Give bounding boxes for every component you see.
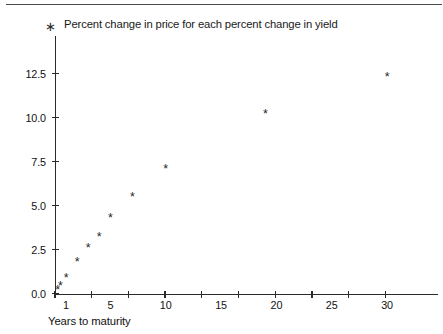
- scatter-point: *: [105, 212, 115, 222]
- x-axis-tick: [348, 291, 349, 298]
- y-axis-tick: [52, 117, 59, 118]
- x-axis-tick-label: 25: [317, 299, 347, 311]
- x-axis-tick: [164, 291, 165, 298]
- y-axis-tick-label: 2.5: [12, 244, 46, 256]
- x-axis-tick-label: 5: [95, 299, 125, 311]
- x-axis-tick-label: 10: [151, 299, 181, 311]
- x-axis-tick-label: 1: [51, 299, 81, 311]
- scatter-point: *: [127, 191, 137, 201]
- scatter-point: *: [260, 108, 270, 118]
- scatter-point: *: [61, 272, 71, 282]
- x-axis-tick: [91, 291, 92, 298]
- scatter-point: *: [161, 163, 171, 173]
- y-axis-tick-label: 5.0: [12, 200, 46, 212]
- x-axis-tick-label: 30: [372, 299, 402, 311]
- scatter-point: *: [94, 231, 104, 241]
- y-axis-tick-label: 10.0: [12, 112, 46, 124]
- y-axis-tick: [52, 73, 59, 74]
- y-axis-tick-label: 12.5: [12, 68, 46, 80]
- x-axis-title: Years to maturity: [48, 315, 131, 327]
- y-axis-tick-label: 0.0: [12, 288, 46, 300]
- scatter-point: *: [83, 242, 93, 252]
- x-axis-tick-label: 15: [206, 299, 236, 311]
- y-axis-tick-label: 7.5: [12, 156, 46, 168]
- scatter-point: *: [72, 256, 82, 266]
- x-axis-tick: [128, 291, 129, 298]
- y-axis-tick: [52, 161, 59, 162]
- x-axis-line: [55, 294, 438, 295]
- x-axis-tick: [311, 291, 312, 298]
- y-axis-tick: [52, 249, 59, 250]
- x-axis-tick-label: 20: [261, 299, 291, 311]
- y-axis-line: [55, 36, 56, 294]
- x-axis-tick: [238, 291, 239, 298]
- plot-area: 0.02.55.07.510.012.5 151015202530 ******…: [0, 0, 443, 334]
- y-axis-tick: [52, 205, 59, 206]
- x-axis-tick: [385, 291, 386, 298]
- x-axis-tick: [275, 291, 276, 298]
- scatter-point: *: [382, 71, 392, 81]
- chart-figure: ∗ Percent change in price for each perce…: [0, 0, 443, 334]
- x-axis-tick: [201, 291, 202, 298]
